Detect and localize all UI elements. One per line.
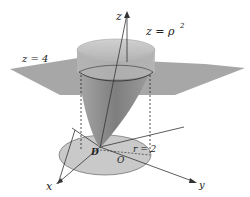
z-axis-label: z [115,10,122,23]
z-axis-arrow [124,11,130,18]
y-axis-label: y [198,179,205,190]
y-axis-arrow [189,178,197,183]
plane-label: z = 4 [21,53,48,64]
radius-label: r = 2 [133,144,157,154]
diagram-canvas: z z = ρ 2 z = 4 D O r = 2 x y [0,0,250,197]
origin-label: O [117,155,125,165]
surface-label: z = ρ [145,25,175,38]
region-label: D [90,147,99,157]
surface-label-exponent: 2 [179,22,185,30]
x-axis-label: x [46,180,53,193]
